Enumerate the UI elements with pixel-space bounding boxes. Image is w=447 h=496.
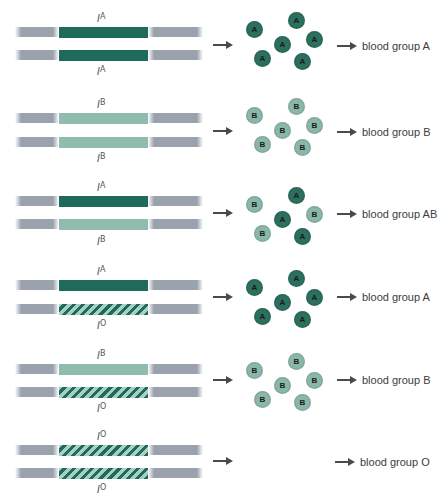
allele-IB-segment — [58, 363, 149, 376]
arrow-right-icon — [337, 376, 357, 384]
genotype-row-IA-IB: IA IB B A A B B A blood group AB — [0, 169, 447, 253]
chromosome-bottom — [15, 218, 203, 230]
antigen-A-cell: A — [274, 36, 291, 53]
antigen-B-cell: B — [288, 98, 305, 115]
antigen-A-cell: A — [274, 294, 291, 311]
blood-group-label: blood group A — [362, 291, 430, 303]
chromosome-arm — [148, 468, 203, 478]
arrow-right-icon — [213, 209, 233, 217]
chromosome-top — [15, 363, 203, 375]
chromosome-bottom — [15, 49, 203, 61]
arrow-right-icon — [337, 210, 357, 218]
antigen-B-cell: B — [246, 362, 263, 379]
arrow-right-icon — [337, 42, 357, 50]
blood-group-label: blood group B — [362, 374, 431, 386]
antigen-B-cell: B — [254, 391, 271, 408]
top-allele-label: IA — [97, 12, 105, 24]
antigen-A-cell: A — [306, 31, 323, 48]
antigen-A-cell: A — [288, 12, 305, 29]
chromosome-arm — [148, 387, 203, 397]
genotype-row-IB-IB: IB IB B B B B B B blood group B — [0, 86, 447, 170]
blood-group-label: blood group AB — [362, 208, 437, 220]
chromosome-arm — [15, 304, 59, 314]
top-allele-label: IA — [97, 265, 105, 277]
top-allele-label: IB — [97, 98, 105, 110]
chromosome-arm — [15, 468, 59, 478]
chromosome-arm — [148, 113, 203, 123]
arrow-right-icon — [213, 293, 233, 301]
chromosome-arm — [15, 387, 59, 397]
top-allele-label: IB — [97, 349, 105, 361]
blood-group-label: blood group B — [362, 126, 431, 138]
chromosome-arm — [15, 219, 59, 229]
bottom-allele-label: IO — [97, 483, 106, 495]
arrow-right-icon — [213, 376, 233, 384]
chromosome-arm — [148, 50, 203, 60]
chromosome-bottom — [15, 467, 203, 479]
antigen-A-cell: A — [306, 289, 323, 306]
antigen-B-cell: B — [306, 117, 323, 134]
chromosome-top — [15, 112, 203, 124]
allele-IA-segment — [58, 279, 149, 292]
allele-IO-segment — [58, 386, 149, 399]
antigen-B-cell: B — [294, 394, 311, 411]
antigen-B-cell: B — [246, 196, 263, 213]
allele-IB-segment — [58, 112, 149, 125]
chromosome-arm — [15, 50, 59, 60]
antigen-A-cell: A — [294, 311, 311, 328]
chromosome-top — [15, 195, 203, 207]
allele-IO-segment — [58, 303, 149, 316]
arrow-right-icon — [337, 293, 357, 301]
antigen-A-cell: A — [254, 308, 271, 325]
chromosome-arm — [148, 219, 203, 229]
allele-IA-segment — [58, 195, 149, 208]
antigen-A-cell: A — [288, 270, 305, 287]
allele-IB-segment — [58, 218, 149, 231]
antigen-B-cell: B — [274, 377, 291, 394]
antigen-A-cell: A — [274, 211, 291, 228]
genotype-row-IB-IO: IB IO B B B B B B blood group B — [0, 337, 447, 421]
chromosome-top — [15, 279, 203, 291]
chromosome-top — [15, 444, 203, 456]
bottom-allele-label: IB — [97, 152, 105, 164]
antigen-B-cell: B — [306, 206, 323, 223]
antigen-B-cell: B — [254, 225, 271, 242]
chromosome-arm — [148, 304, 203, 314]
chromosome-arm — [15, 364, 59, 374]
arrow-right-icon — [213, 41, 233, 49]
antigen-B-cell: B — [288, 353, 305, 370]
chromosome-arm — [148, 27, 203, 37]
chromosome-arm — [15, 280, 59, 290]
bottom-allele-label: IO — [97, 319, 106, 331]
blood-group-label: blood group O — [360, 456, 430, 468]
chromosome-arm — [148, 137, 203, 147]
chromosome-bottom — [15, 303, 203, 315]
chromosome-top — [15, 26, 203, 38]
genotype-row-IA-IO: IA IO A A A A A A blood group A — [0, 253, 447, 337]
chromosome-arm — [15, 137, 59, 147]
genotype-row-IA-IA: IA IA A A A A A A blood group A — [0, 0, 447, 84]
bottom-allele-label: IA — [97, 65, 105, 77]
allele-IO-segment — [58, 467, 149, 480]
antigen-A-cell: A — [294, 228, 311, 245]
antigen-A-cell: A — [254, 50, 271, 67]
chromosome-bottom — [15, 136, 203, 148]
arrow-right-icon — [213, 127, 233, 135]
allele-IA-segment — [58, 26, 149, 39]
allele-IB-segment — [58, 136, 149, 149]
antigen-B-cell: B — [254, 136, 271, 153]
chromosome-arm — [148, 364, 203, 374]
bottom-allele-label: IB — [97, 235, 105, 247]
antigen-A-cell: A — [294, 53, 311, 70]
arrow-right-icon — [337, 128, 357, 136]
chromosome-arm — [15, 27, 59, 37]
chromosome-arm — [15, 445, 59, 455]
antigen-A-cell: A — [246, 279, 263, 296]
allele-IO-segment — [58, 444, 149, 457]
chromosome-arm — [15, 113, 59, 123]
arrow-right-icon — [335, 458, 355, 466]
antigen-B-cell: B — [294, 139, 311, 156]
chromosome-arm — [148, 445, 203, 455]
arrow-right-icon — [213, 457, 233, 465]
chromosome-bottom — [15, 386, 203, 398]
